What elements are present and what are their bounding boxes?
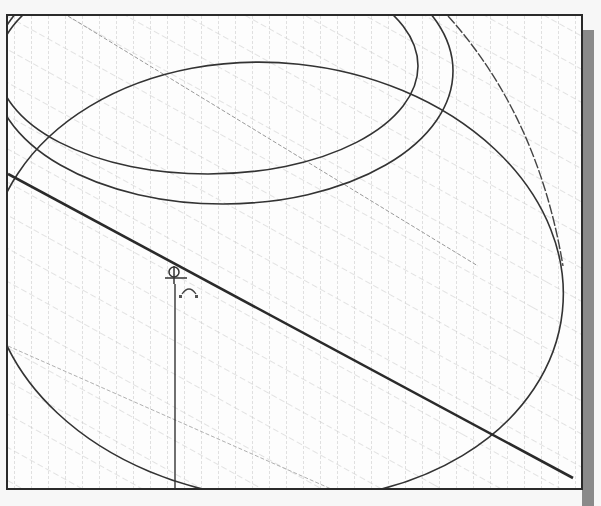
viewport-shadow: [582, 30, 594, 506]
isometric-grid: [8, 16, 583, 490]
sketch-canvas[interactable]: [8, 16, 583, 490]
sketch-viewport[interactable]: [6, 14, 583, 490]
